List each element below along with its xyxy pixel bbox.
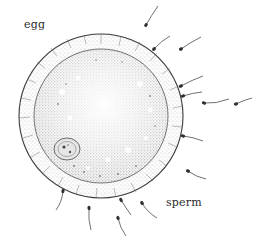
sperm-label: sperm bbox=[166, 196, 202, 209]
sperm-cell bbox=[179, 76, 203, 88]
sperm-cell bbox=[152, 36, 170, 51]
sperm-cell bbox=[119, 198, 131, 215]
sperm-cell bbox=[186, 169, 206, 179]
sperm-cell bbox=[144, 6, 158, 27]
sperm-cell bbox=[179, 37, 201, 51]
sperm-cell bbox=[140, 201, 157, 218]
illustration-canvas bbox=[0, 0, 266, 246]
egg-cytoplasm bbox=[34, 49, 168, 183]
egg-sperm-illustration: egg sperm bbox=[0, 0, 266, 246]
egg-nucleus bbox=[54, 138, 80, 160]
sperm-cell bbox=[116, 216, 126, 236]
sperm-cell bbox=[202, 99, 229, 104]
sperm-cell bbox=[181, 134, 203, 141]
sperm-cell bbox=[181, 92, 202, 97]
sperm-cell bbox=[88, 206, 91, 230]
sperm-cell bbox=[56, 189, 64, 210]
sperm-cell bbox=[234, 98, 252, 106]
egg-label: egg bbox=[24, 18, 45, 31]
